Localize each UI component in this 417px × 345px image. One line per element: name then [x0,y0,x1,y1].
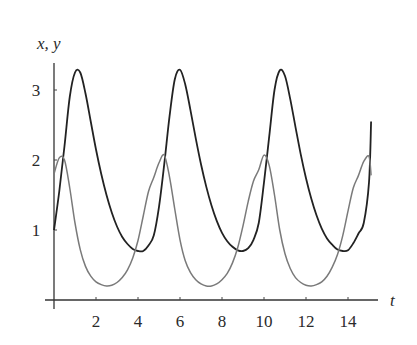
y-tick-label: 2 [32,151,41,170]
x-tick-label: 12 [298,312,315,331]
x-axis-label: t [390,291,396,310]
line-chart: 2468101214 123 x, y t [0,0,417,345]
x-tick-label: 2 [92,312,101,331]
y-axis-label: x, y [36,34,61,53]
y-tick-label: 1 [32,221,41,240]
y-ticks: 123 [32,81,57,240]
x-tick-label: 8 [218,312,227,331]
x-ticks: 2468101214 [92,297,357,331]
series-layer [54,70,371,287]
series-x-line [54,70,371,252]
x-tick-label: 4 [134,312,143,331]
x-tick-label: 10 [256,312,273,331]
y-tick-label: 3 [32,81,41,100]
x-tick-label: 14 [340,312,358,331]
x-tick-label: 6 [176,312,185,331]
